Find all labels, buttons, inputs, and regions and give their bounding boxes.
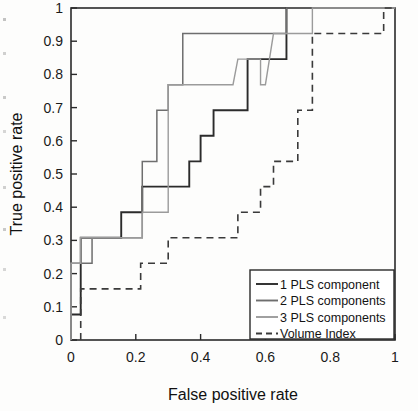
y-tick-label: 0.2 — [44, 266, 64, 282]
y-tick-label: 0.9 — [44, 33, 64, 49]
y-axis-tick-labels: 00.10.20.30.40.50.60.70.80.91 — [44, 0, 64, 348]
y-tick-label: 0.7 — [44, 100, 64, 116]
y-tick-label: 0.4 — [44, 199, 64, 215]
chart-page: 00.20.40.60.81 00.10.20.30.40.50.60.70.8… — [0, 0, 418, 411]
x-tick-label: 0.2 — [126, 349, 146, 365]
legend-label: 2 PLS components — [280, 294, 386, 308]
x-tick-label: 0.6 — [256, 349, 276, 365]
x-axis-title: False positive rate — [168, 386, 298, 403]
roc-curve-chart: 00.20.40.60.81 00.10.20.30.40.50.60.70.8… — [0, 0, 418, 411]
y-tick-label: 0.8 — [44, 66, 64, 82]
legend-label: 3 PLS components — [280, 311, 386, 325]
y-axis-title: True positive rate — [8, 112, 25, 235]
x-tick-label: 0.4 — [191, 349, 211, 365]
chart-legend: 1 PLS component2 PLS components3 PLS com… — [250, 270, 394, 341]
x-tick-label: 0 — [67, 349, 75, 365]
x-tick-label: 0.8 — [320, 349, 340, 365]
legend-label: 1 PLS component — [280, 278, 380, 292]
legend-label: Volume Index — [280, 327, 356, 341]
y-tick-label: 0 — [55, 332, 63, 348]
x-tick-label: 1 — [391, 349, 399, 365]
y-tick-label: 0.6 — [44, 133, 64, 149]
y-axis-ticks — [71, 8, 77, 340]
y-tick-label: 0.5 — [44, 166, 64, 182]
y-tick-label: 1 — [55, 0, 63, 16]
x-axis-tick-labels: 00.20.40.60.81 — [67, 349, 399, 365]
y-tick-label: 0.3 — [44, 232, 64, 248]
y-tick-label: 0.1 — [44, 299, 64, 315]
